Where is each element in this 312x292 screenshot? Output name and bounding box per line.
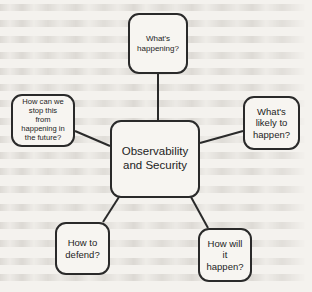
- connector-center-to-bottom-right: [191, 197, 208, 228]
- node-whats-happening[interactable]: What's happening?: [128, 13, 188, 74]
- node-how-can-we-stop-this[interactable]: How can we stop this from happening in t…: [11, 94, 75, 147]
- connector-center-to-right: [200, 131, 243, 143]
- connector-center-to-bottom-left: [103, 197, 119, 222]
- node-how-to-defend[interactable]: How to defend?: [55, 222, 110, 275]
- diagram-canvas: What's happening? What's likely to happe…: [0, 0, 312, 292]
- node-how-will-it-happen[interactable]: How will it happen?: [198, 228, 252, 282]
- node-whats-likely-to-happen[interactable]: What's likely to happen?: [243, 96, 300, 150]
- node-observability-and-security[interactable]: Observability and Security: [110, 120, 200, 198]
- connector-center-to-left: [75, 131, 110, 146]
